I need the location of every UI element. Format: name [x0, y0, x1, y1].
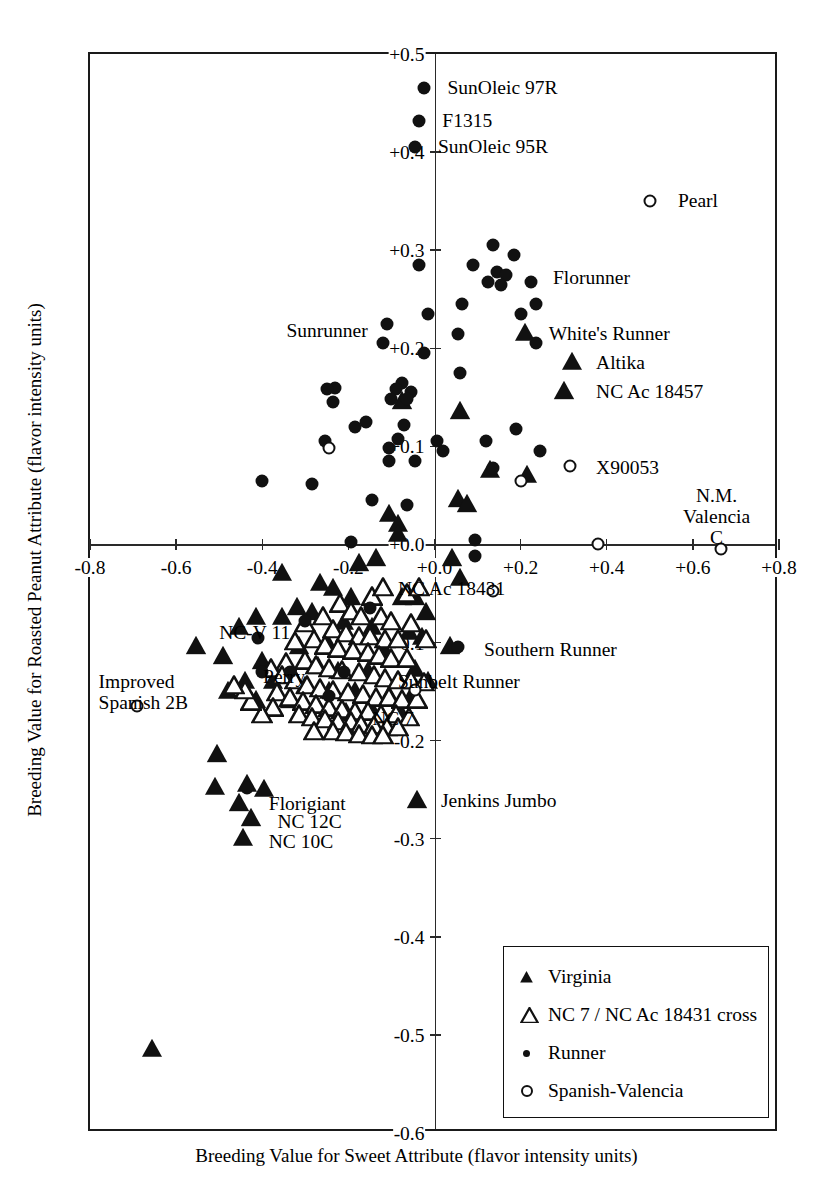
- point-label: NC 12C: [277, 811, 341, 832]
- x-tick: [89, 539, 90, 550]
- data-point-virginia: [142, 1038, 163, 1060]
- y-tick: [430, 1034, 441, 1035]
- data-point-runner: [482, 275, 495, 288]
- data-point-virginia: [271, 563, 292, 585]
- point-label: NC 10C: [269, 831, 333, 852]
- data-point-spanish-valencia: [514, 474, 527, 487]
- data-point-runner: [480, 435, 493, 448]
- data-point-runner: [376, 337, 389, 350]
- data-point-runner: [256, 474, 269, 487]
- point-label: Perry: [263, 666, 305, 687]
- data-point-virginia: [207, 744, 228, 766]
- data-point-runner: [469, 550, 482, 563]
- data-point-cross: [396, 649, 418, 672]
- data-point-runner: [413, 114, 426, 127]
- data-point-runner: [348, 420, 361, 433]
- x-tick: [520, 539, 521, 550]
- x-tick: [778, 539, 779, 550]
- data-point-virginia: [562, 352, 583, 374]
- y-tick-label: -0.3: [393, 829, 426, 848]
- data-point-runner: [398, 418, 411, 431]
- data-point-runner: [514, 307, 527, 320]
- data-point-spanish-valencia: [643, 195, 656, 208]
- data-point-runner: [385, 393, 398, 406]
- data-point-runner: [454, 366, 467, 379]
- data-point-cross: [415, 629, 437, 652]
- data-point-virginia: [349, 553, 370, 575]
- point-label: N.M.Valencia C: [683, 485, 750, 548]
- scatter-plot-figure: -0.8-0.6-0.4-0.2+0.0+0.2+0.4+0.6+0.8+0.5…: [0, 0, 833, 1184]
- y-tick: [430, 936, 441, 937]
- data-point-runner: [417, 347, 430, 360]
- point-label: ImprovedSpanish 2B: [99, 671, 188, 713]
- point-label: Sunbelt Runner: [398, 671, 520, 692]
- y-tick: [430, 249, 441, 250]
- x-tick-label: +0.4: [588, 558, 625, 577]
- y-tick: [430, 838, 441, 839]
- data-point-spanish-valencia: [592, 538, 605, 551]
- data-point-runner: [525, 275, 538, 288]
- data-point-runner: [437, 445, 450, 458]
- legend-item-label: Spanish-Valencia: [548, 1080, 683, 1102]
- data-point-runner: [327, 396, 340, 409]
- point-label: SunOleic 95R: [438, 136, 548, 157]
- point-label: F1315: [442, 110, 492, 131]
- legend-item-label: Runner: [548, 1042, 605, 1064]
- data-point-runner: [381, 317, 394, 330]
- data-point-runner: [241, 781, 254, 794]
- data-point-virginia: [213, 646, 234, 668]
- point-label: Florunner: [553, 267, 630, 288]
- point-label: NC-V 11: [219, 622, 290, 643]
- legend-item-0: Virginia: [504, 958, 768, 996]
- point-label: Jenkins Jumbo: [441, 790, 556, 811]
- data-point-runner: [467, 258, 480, 271]
- point-label: X90053: [596, 457, 659, 478]
- data-point-virginia: [204, 776, 225, 798]
- data-point-runner: [305, 477, 318, 490]
- data-point-runner: [400, 499, 413, 512]
- data-point-runner: [366, 494, 379, 507]
- legend-item-3: Spanish-Valencia: [504, 1072, 768, 1110]
- data-point-runner: [344, 536, 357, 549]
- x-tick: [606, 539, 607, 550]
- data-point-runner: [413, 258, 426, 271]
- y-tick: [430, 348, 441, 349]
- point-label: White's Runner: [549, 323, 670, 344]
- data-point-runner: [320, 383, 333, 396]
- data-point-runner: [338, 665, 351, 678]
- point-label: Altika: [596, 352, 645, 373]
- x-tick: [262, 539, 263, 550]
- y-tick-label: +0.5: [388, 45, 425, 64]
- y-tick-label: -0.6: [393, 1124, 426, 1143]
- data-point-virginia: [185, 636, 206, 658]
- point-label: NC Ac 18457: [596, 381, 703, 402]
- legend-item-1: NC 7 / NC Ac 18431 cross: [504, 996, 768, 1034]
- filled-triangle-icon: [520, 971, 548, 982]
- data-point-runner: [534, 445, 547, 458]
- data-point-virginia: [450, 401, 471, 423]
- data-point-runner: [383, 455, 396, 468]
- x-axis-title: Breeding Value for Sweet Attribute (flav…: [0, 1145, 833, 1167]
- data-point-virginia: [407, 790, 428, 812]
- data-point-cross: [223, 675, 245, 698]
- data-point-runner: [529, 298, 542, 311]
- data-point-runner: [422, 307, 435, 320]
- data-point-spanish-valencia: [322, 442, 335, 455]
- data-point-runner: [486, 461, 499, 474]
- point-label: Pearl: [678, 190, 718, 211]
- data-point-runner: [409, 455, 422, 468]
- open-triangle-icon: [520, 1007, 548, 1024]
- data-point-cross: [372, 577, 394, 600]
- data-point-runner: [409, 141, 422, 154]
- data-point-runner: [400, 393, 413, 406]
- data-point-virginia: [232, 827, 253, 849]
- legend: VirginiaNC 7 / NC Ac 18431 crossRunnerSp…: [503, 946, 769, 1118]
- data-point-runner: [452, 641, 465, 654]
- point-label: Sunrunner: [287, 320, 368, 341]
- data-point-runner: [510, 422, 523, 435]
- x-tick-label: +0.2: [502, 558, 539, 577]
- legend-item-2: Runner: [504, 1034, 768, 1072]
- y-tick: [430, 544, 441, 545]
- data-point-runner: [456, 298, 469, 311]
- x-tick-label: +0.6: [674, 558, 711, 577]
